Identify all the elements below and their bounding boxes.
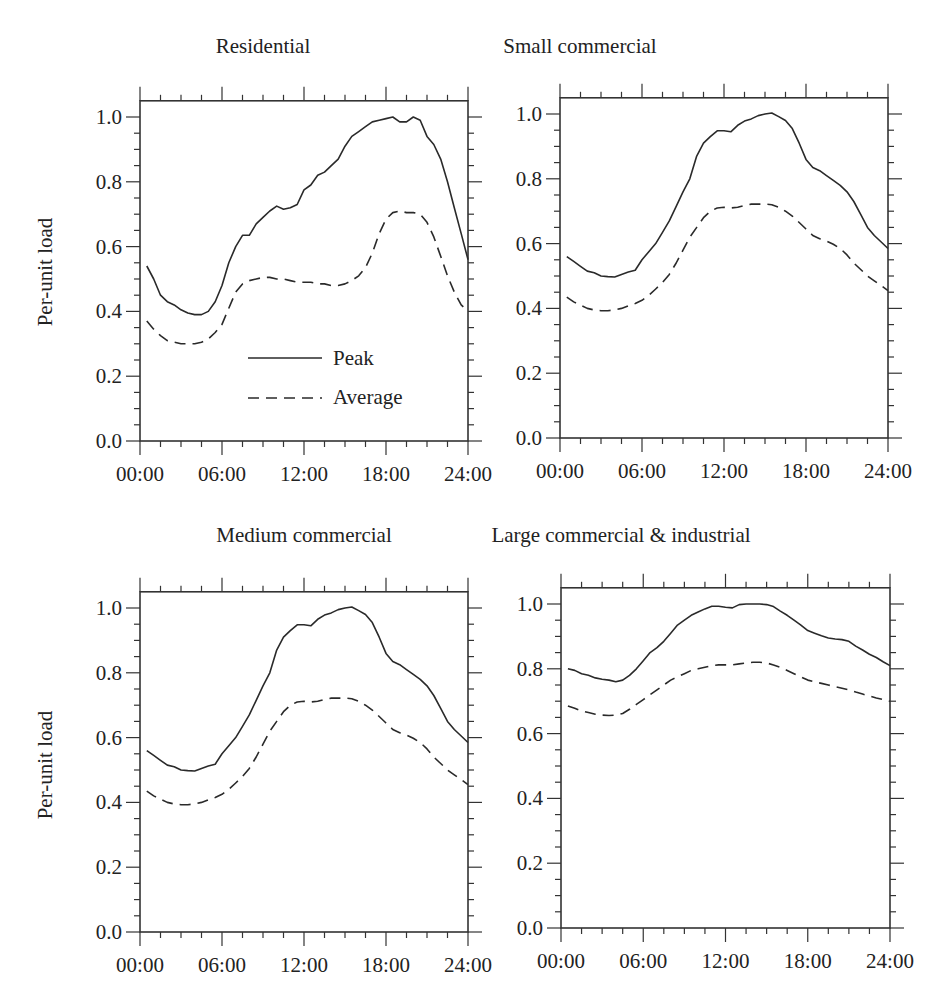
panel-title-residential: Residential xyxy=(216,34,310,59)
panel-0: 00:0006:0012:0018:0024:000.00.20.40.60.8… xyxy=(96,87,492,486)
y-tick-label: 0.4 xyxy=(96,790,123,814)
x-tick-label: 12:00 xyxy=(280,953,328,977)
y-axis-label-top: Per-unit load xyxy=(33,218,58,327)
panel-title-large-commercial-industrial: Large commercial & industrial xyxy=(491,523,750,548)
panel-title-medium-commercial: Medium commercial xyxy=(216,523,392,548)
peak-line xyxy=(567,113,888,277)
x-tick-label: 00:00 xyxy=(537,949,585,973)
legend-peak-label: Peak xyxy=(333,346,374,371)
y-tick-label: 0.4 xyxy=(517,786,544,810)
y-tick-label: 1.0 xyxy=(96,105,122,129)
average-line xyxy=(567,204,888,311)
plot-frame xyxy=(560,98,888,438)
panel-2: 00:0006:0012:0018:0024:000.00.20.40.60.8… xyxy=(96,578,492,977)
peak-line xyxy=(568,604,890,682)
x-tick-label: 00:00 xyxy=(116,462,164,486)
x-tick-label: 06:00 xyxy=(198,462,246,486)
plot-canvas: 00:0006:0012:0018:0024:000.00.20.40.60.8… xyxy=(0,0,947,997)
y-tick-label: 0.6 xyxy=(96,726,122,750)
y-tick-label: 0.6 xyxy=(517,722,543,746)
x-tick-label: 24:00 xyxy=(864,459,912,483)
average-line xyxy=(147,698,468,805)
x-tick-label: 24:00 xyxy=(866,949,914,973)
panel-3: 00:0006:0012:0018:0024:000.00.20.40.60.8… xyxy=(517,574,914,973)
x-tick-label: 06:00 xyxy=(198,953,246,977)
y-tick-label: 0.0 xyxy=(516,426,542,450)
x-tick-label: 06:00 xyxy=(618,459,666,483)
x-tick-label: 12:00 xyxy=(702,949,750,973)
y-tick-label: 0.0 xyxy=(96,429,122,453)
y-tick-label: 1.0 xyxy=(517,592,543,616)
y-tick-label: 0.0 xyxy=(517,916,543,940)
x-tick-label: 18:00 xyxy=(362,462,410,486)
plot-frame xyxy=(140,592,468,932)
y-tick-label: 0.2 xyxy=(96,364,122,388)
x-tick-label: 06:00 xyxy=(619,949,667,973)
x-tick-label: 00:00 xyxy=(116,953,164,977)
y-tick-label: 0.6 xyxy=(96,235,122,259)
x-tick-label: 18:00 xyxy=(362,953,410,977)
y-tick-label: 0.4 xyxy=(96,299,123,323)
y-tick-label: 1.0 xyxy=(516,102,542,126)
y-tick-label: 0.4 xyxy=(516,296,543,320)
x-tick-label: 18:00 xyxy=(782,459,830,483)
y-tick-label: 0.2 xyxy=(96,855,122,879)
average-line xyxy=(147,211,468,344)
y-tick-label: 0.2 xyxy=(516,361,542,385)
x-tick-label: 12:00 xyxy=(700,459,748,483)
y-tick-label: 0.8 xyxy=(517,657,543,681)
y-axis-label-bottom: Per-unit load xyxy=(33,711,58,820)
x-tick-label: 24:00 xyxy=(444,953,492,977)
peak-line xyxy=(147,117,468,315)
y-tick-label: 0.0 xyxy=(96,920,122,944)
legend-average-label: Average xyxy=(333,385,403,410)
x-tick-label: 12:00 xyxy=(280,462,328,486)
y-tick-label: 0.2 xyxy=(517,851,543,875)
y-tick-label: 0.6 xyxy=(516,232,542,256)
peak-line xyxy=(147,607,468,771)
average-line xyxy=(568,662,890,715)
panel-title-small-commercial: Small commercial xyxy=(503,34,656,59)
x-tick-label: 24:00 xyxy=(444,462,492,486)
y-tick-label: 1.0 xyxy=(96,596,122,620)
x-tick-label: 00:00 xyxy=(536,459,584,483)
y-tick-label: 0.8 xyxy=(516,167,542,191)
plot-frame xyxy=(140,101,468,441)
y-tick-label: 0.8 xyxy=(96,661,122,685)
panel-1: 00:0006:0012:0018:0024:000.00.20.40.60.8… xyxy=(516,84,912,483)
figure: 00:0006:0012:0018:0024:000.00.20.40.60.8… xyxy=(0,0,947,997)
y-tick-label: 0.8 xyxy=(96,170,122,194)
x-tick-label: 18:00 xyxy=(784,949,832,973)
